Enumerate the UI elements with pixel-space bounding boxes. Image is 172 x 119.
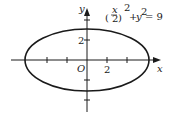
svg-text:): ) (118, 12, 122, 23)
equation-label: ( x 2 ) 2 + y 2 = 9 (105, 2, 163, 24)
y-tick-label: 2 (78, 35, 84, 46)
origin-label: O (77, 63, 85, 74)
svg-text:(: ( (105, 12, 109, 23)
y-axis-arrow-icon (84, 8, 90, 16)
ellipse-graph: O 2 2 x y ( x 2 ) 2 + y 2 = 9 (0, 0, 172, 119)
y-axis-label: y (78, 3, 85, 14)
x-axis-label: x (157, 63, 163, 74)
svg-text:= 9: = 9 (145, 11, 163, 22)
x-tick-label: 2 (104, 64, 110, 75)
